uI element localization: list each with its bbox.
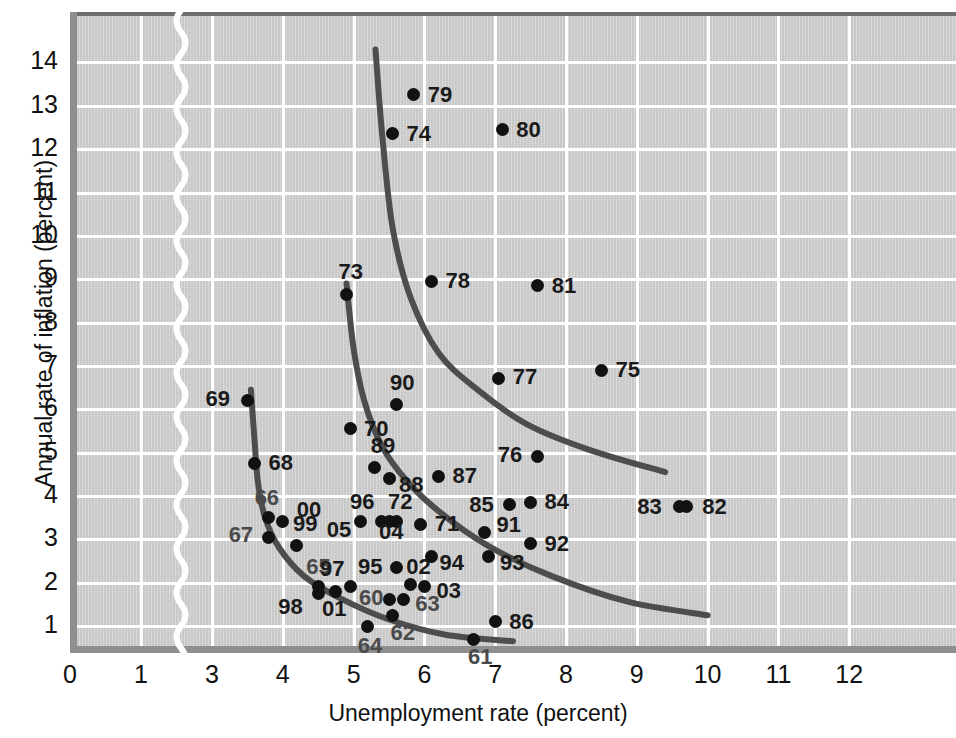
data-point-label: 86 [509,609,533,635]
data-point-label: 76 [498,442,522,468]
data-point-label: 69 [205,386,229,412]
data-point [344,580,357,593]
data-point [248,457,261,470]
data-point-label: 82 [702,494,726,520]
data-point-label: 90 [390,370,414,396]
data-point [390,561,403,574]
data-point [524,496,537,509]
data-point-label: 98 [278,594,302,620]
data-point-label: 77 [513,364,537,390]
data-point-label: 87 [453,463,477,489]
x-tick-label: 4 [263,660,303,689]
data-point [262,531,275,544]
x-axis-title: Unemployment rate (percent) [0,700,956,727]
data-point-label: 95 [358,554,382,580]
data-point [673,500,686,513]
data-point-label: 83 [637,494,661,520]
data-point-label: 04 [379,519,403,545]
x-tick-label: 7 [475,660,515,689]
curve-short-run-phillips-curve-1970s [376,49,666,472]
y-axis-title: Annual rate of inflation (percent) [31,44,58,604]
x-tick-label: 1 [121,660,161,689]
data-point [496,123,509,136]
data-point [425,275,438,288]
x-tick-label: 3 [192,660,232,689]
data-point [595,364,608,377]
data-point-label: 81 [552,273,576,299]
x-tick-label: 0 [50,660,90,689]
data-point [503,498,516,511]
data-point-label: 05 [327,517,351,543]
data-point-label: 00 [297,497,321,523]
data-point [489,615,502,628]
data-point-label: 91 [497,512,521,538]
axis-break-icon [164,10,198,670]
data-point [241,394,254,407]
data-point [404,578,417,591]
data-point-label: 66 [255,485,279,511]
data-point-label: 84 [545,489,569,515]
data-point-label: 67 [229,522,253,548]
data-point [390,398,403,411]
data-point-label: 71 [435,511,459,537]
chart-canvas: 6061626364656667686970717273747576777879… [0,0,956,738]
data-point-label: 64 [358,633,382,659]
data-point [482,550,495,563]
data-point [340,288,353,301]
data-point-label: 89 [371,433,395,459]
x-tick-label: 12 [829,660,869,689]
data-point-label: 85 [469,492,493,518]
x-tick-label: 5 [334,660,374,689]
phillips-curves [0,0,956,738]
data-point-label: 79 [428,82,452,108]
data-point [432,470,445,483]
data-point-label: 80 [516,117,540,143]
data-point-label: 62 [391,620,415,646]
data-point-label: 02 [406,554,430,580]
data-point [414,518,427,531]
x-tick-label: 8 [546,660,586,689]
data-point-label: 92 [545,531,569,557]
data-point [383,593,396,606]
data-point [383,472,396,485]
x-tick-label: 6 [404,660,444,689]
x-tick-label: 9 [617,660,657,689]
data-point-label: 96 [350,489,374,515]
data-point-label: 78 [445,268,469,294]
x-tick-label: 10 [688,660,728,689]
data-point-label: 73 [339,259,363,285]
data-point-label: 03 [436,578,460,604]
data-point-label: 60 [359,585,383,611]
data-point [344,422,357,435]
data-point-label: 01 [322,596,346,622]
data-point-label: 93 [500,550,524,576]
y-tick-label: 1 [14,610,58,639]
data-point-label: 75 [615,357,639,383]
data-point [361,620,374,633]
data-point-label: 68 [268,450,292,476]
data-point-label: 88 [399,472,423,498]
data-point-label: 97 [320,556,344,582]
data-point-label: 94 [439,550,463,576]
x-tick-label: 11 [758,660,798,689]
data-point-label: 74 [407,121,431,147]
